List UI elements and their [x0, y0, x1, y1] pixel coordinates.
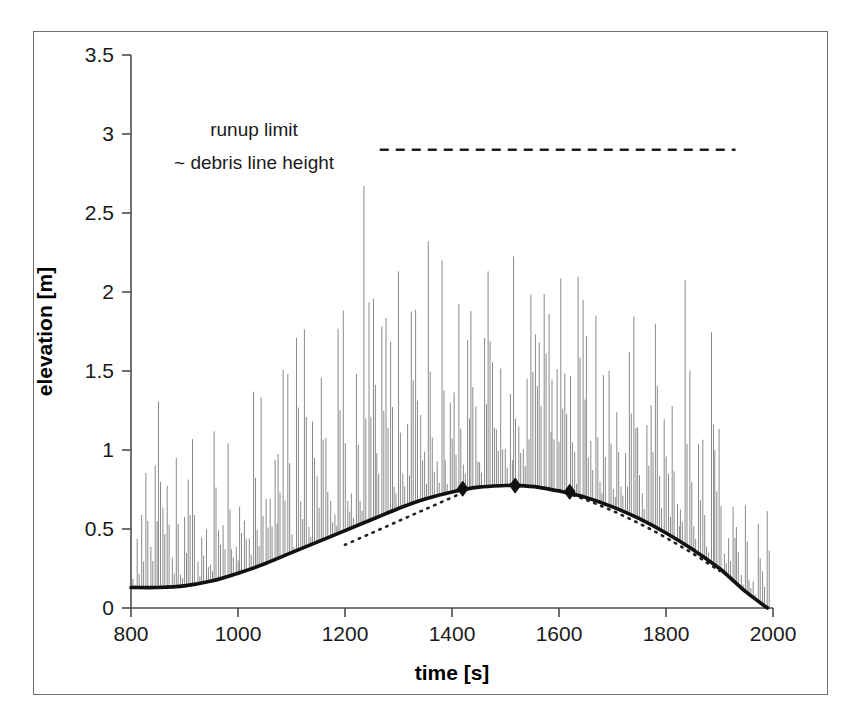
chart-canvas: 00.511.522.533.5800100012001400160018002… — [0, 0, 856, 728]
x-tick-label-2: 1200 — [322, 622, 369, 645]
y-tick-label-1: 0.5 — [85, 517, 114, 540]
x-tick-label-1: 1000 — [215, 622, 262, 645]
y-tick-label-6: 3 — [102, 122, 114, 145]
runup-limit-label-line1: runup limit — [210, 119, 298, 140]
y-tick-label-2: 1 — [102, 438, 114, 461]
x-tick-label-4: 1600 — [536, 622, 583, 645]
runup-limit-label-line2: ~ debris line height — [174, 152, 335, 173]
swash-oscillation-group — [133, 186, 769, 608]
y-tick-label-3: 1.5 — [85, 359, 114, 382]
swash-oscillation-spikes — [133, 186, 769, 608]
y-tick-label-5: 2.5 — [85, 201, 114, 224]
y-axis-title: elevation [m] — [33, 267, 56, 397]
diamond-marker-3 — [564, 484, 575, 499]
x-tick-label-5: 1800 — [643, 622, 690, 645]
x-tick-label-6: 2000 — [750, 622, 797, 645]
y-tick-label-0: 0 — [102, 596, 114, 619]
x-tick-label-0: 800 — [113, 622, 148, 645]
figure-container: 00.511.522.533.5800100012001400160018002… — [0, 0, 856, 728]
y-tick-label-7: 3.5 — [85, 43, 114, 66]
y-tick-label-4: 2 — [102, 280, 114, 303]
x-tick-label-3: 1400 — [429, 622, 476, 645]
x-axis-title: time [s] — [415, 661, 490, 684]
